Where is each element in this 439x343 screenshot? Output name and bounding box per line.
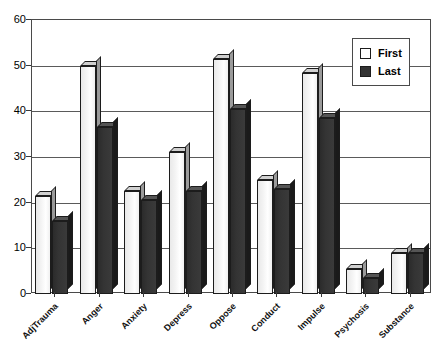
y-axis-tick-label: 60 bbox=[2, 14, 26, 25]
bar-side-face bbox=[379, 268, 384, 289]
legend-item-first: First bbox=[360, 44, 402, 62]
bar-anxiety-first bbox=[124, 191, 140, 294]
bar-anger-first bbox=[80, 66, 96, 294]
bar-psychosis-first bbox=[346, 269, 362, 294]
legend-swatch-icon bbox=[360, 66, 371, 77]
y-axis-tick-label: 30 bbox=[2, 151, 26, 162]
chart-legend: FirstLast bbox=[352, 38, 410, 86]
bar-impulse-first bbox=[302, 73, 318, 294]
x-axis-tickmark bbox=[365, 292, 366, 297]
y-axis-tickmark bbox=[26, 247, 31, 248]
x-axis-tickmark bbox=[143, 292, 144, 297]
bar-side-face bbox=[335, 108, 340, 289]
y-axis-tickmark bbox=[26, 110, 31, 111]
legend-swatch-icon bbox=[360, 48, 371, 59]
bar-side-face bbox=[157, 190, 162, 289]
y-axis-tick-labels: 0102030405060 bbox=[0, 0, 26, 343]
bar-adjtrauma-last bbox=[52, 221, 68, 294]
y-axis-tickmark bbox=[26, 65, 31, 66]
y-axis-tick-label: 10 bbox=[2, 242, 26, 253]
x-axis-tickmark bbox=[276, 292, 277, 297]
bar-anxiety-last bbox=[141, 200, 157, 294]
bar-oppose-last bbox=[230, 109, 246, 294]
bar-impulse-last bbox=[319, 118, 335, 294]
bar-side-face bbox=[113, 117, 118, 289]
y-axis-tick-label: 0 bbox=[2, 288, 26, 299]
x-axis-tickmark bbox=[99, 292, 100, 297]
y-axis-tickmark bbox=[26, 156, 31, 157]
x-axis-tickmark bbox=[188, 292, 189, 297]
y-axis-tickmark bbox=[26, 202, 31, 203]
y-axis-tick-label: 20 bbox=[2, 196, 26, 207]
bar-chart: 0102030405060 AdjTraumaAngerAnxietyDepre… bbox=[0, 0, 439, 343]
bar-substance-last bbox=[408, 253, 424, 294]
bar-conduct-last bbox=[274, 189, 290, 294]
bar-side-face bbox=[424, 243, 429, 289]
bar-anger-last bbox=[97, 127, 113, 294]
x-axis-tickmark bbox=[232, 292, 233, 297]
bar-adjtrauma-first bbox=[35, 196, 51, 294]
legend-label: Last bbox=[378, 66, 401, 77]
x-axis-tickmark bbox=[410, 292, 411, 297]
y-axis-tickmark bbox=[26, 19, 31, 20]
bar-oppose-first bbox=[213, 59, 229, 294]
bar-substance-first bbox=[391, 253, 407, 294]
legend-item-last: Last bbox=[360, 62, 402, 80]
bar-side-face bbox=[290, 179, 295, 289]
x-axis-tickmark bbox=[321, 292, 322, 297]
bar-side-face bbox=[68, 211, 73, 289]
y-axis-tickmark bbox=[26, 293, 31, 294]
y-axis-tick-label: 40 bbox=[2, 105, 26, 116]
legend-label: First bbox=[378, 48, 402, 59]
bar-depress-last bbox=[186, 191, 202, 294]
bar-side-face bbox=[202, 181, 207, 289]
bar-depress-first bbox=[169, 152, 185, 294]
bar-side-face bbox=[246, 99, 251, 289]
bar-conduct-first bbox=[257, 180, 273, 294]
y-axis-tick-label: 50 bbox=[2, 59, 26, 70]
x-axis-tickmark bbox=[54, 292, 55, 297]
